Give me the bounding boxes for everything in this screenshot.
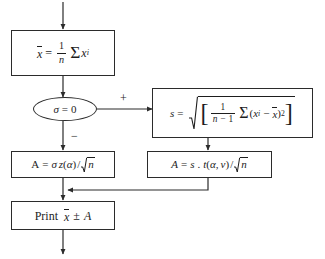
a-s-formula: A = s . t(α,v) / n (171, 157, 247, 173)
edge-label-minus: − (71, 130, 78, 142)
a-sigma-box[interactable]: A = σ z(α) / n (11, 151, 115, 178)
bracket-close: ] (285, 104, 293, 122)
print-box[interactable]: Print x ± A (11, 201, 115, 230)
sample-sd-box[interactable]: s = [ 1 n−1 Σ (xi − x)2 (152, 88, 313, 138)
a-s-box[interactable]: A = s . t(α,v) / n (147, 151, 272, 178)
a-sigma-formula: A = σ z(α) / n (31, 157, 95, 173)
mean-formula: x = 1 n Σ xi (37, 41, 89, 64)
sigma-decision[interactable]: σ = 0 (33, 97, 97, 121)
bracket-open: [ (201, 104, 209, 122)
square-root-icon: n (234, 157, 248, 173)
square-root-icon: [ 1 n−1 Σ (xi − x)2 ] (189, 96, 295, 130)
edge-as-to-print (68, 178, 208, 190)
one-over-n: 1 n (57, 41, 66, 64)
sd-formula: s = [ 1 n−1 Σ (xi − x)2 (170, 96, 295, 130)
divided-by-root-n: / n (76, 157, 95, 173)
flowchart-canvas: x = 1 n Σ xi σ = 0 + − s = (0, 0, 325, 259)
sigma-sum-icon: Σ (70, 46, 80, 60)
decision-formula: σ = 0 (53, 104, 76, 115)
square-root-icon: n (81, 157, 95, 173)
equals-sign: = (45, 47, 52, 59)
mean-box[interactable]: x = 1 n Σ xi (11, 30, 115, 76)
print-formula: Print x ± A (35, 209, 92, 223)
edge-label-plus: + (120, 92, 127, 104)
divided-by-root-n: / n (229, 157, 248, 173)
sigma-sum-icon: Σ (239, 107, 248, 120)
mean-symbol: x (37, 46, 42, 60)
one-over-n-minus-1: 1 n−1 (211, 103, 236, 125)
